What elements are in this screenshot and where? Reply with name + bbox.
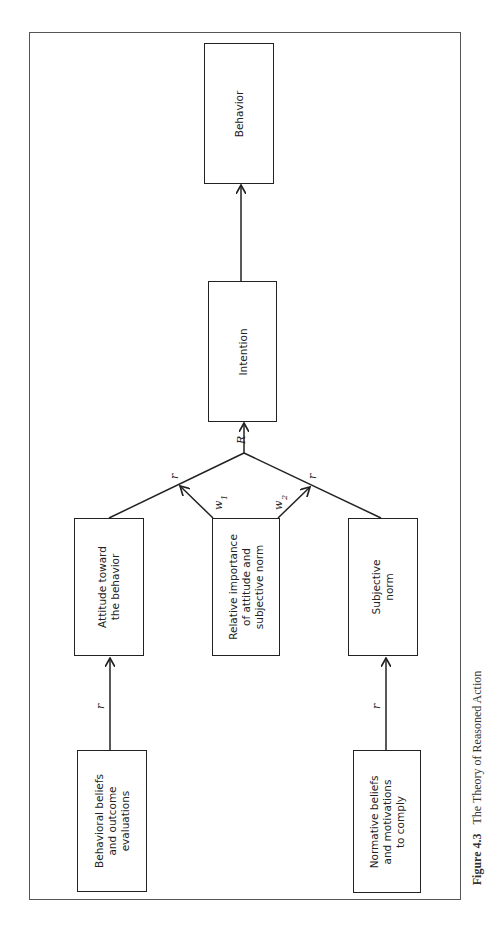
node-label: Subjective norm bbox=[370, 560, 396, 615]
edge-subjective-to-combination bbox=[244, 453, 381, 518]
label-w1: w bbox=[212, 500, 225, 510]
node-attitude: Attitude toward the behavior bbox=[74, 518, 144, 656]
label-w2-sub: 2 bbox=[280, 495, 289, 501]
label-R: R bbox=[235, 436, 248, 445]
label-r-normative: r bbox=[370, 703, 383, 709]
node-behavioral-beliefs: Behavioral beliefs and outcome evaluatio… bbox=[77, 750, 147, 892]
node-label: Attitude toward the behavior bbox=[96, 546, 122, 628]
node-label: Intention bbox=[236, 328, 249, 375]
node-label: Behavioral beliefs and outcome evaluatio… bbox=[93, 774, 132, 868]
figure-caption: Figure 4.3 The Theory of Reasoned Action bbox=[470, 671, 485, 886]
edge-w1 bbox=[180, 486, 213, 518]
figure-title: The Theory of Reasoned Action bbox=[470, 671, 484, 825]
node-intention: Intention bbox=[208, 281, 277, 422]
node-label: Behavior bbox=[233, 90, 246, 137]
label-r-subjective: r bbox=[306, 473, 319, 479]
node-normative-beliefs: Normative beliefs and motivations to com… bbox=[353, 750, 421, 893]
label-w2: w bbox=[272, 500, 285, 510]
node-subjective-norm: Subjective norm bbox=[348, 518, 418, 656]
label-w1-sub: 1 bbox=[220, 495, 229, 500]
node-label: Normative beliefs and motivations to com… bbox=[368, 775, 407, 868]
node-relative-importance: Relative importance of attitude and subj… bbox=[212, 518, 280, 656]
node-label: Relative importance of attitude and subj… bbox=[227, 534, 266, 640]
label-r-attitude: r bbox=[168, 473, 181, 479]
label-r-beliefs: r bbox=[94, 703, 107, 709]
figure-number: Figure 4.3 bbox=[470, 833, 484, 885]
node-behavior: Behavior bbox=[204, 43, 274, 184]
